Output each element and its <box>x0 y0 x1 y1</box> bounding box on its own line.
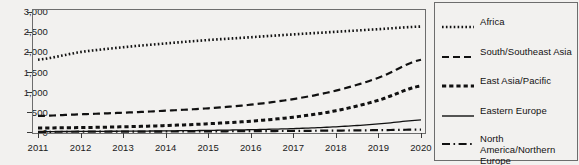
series-line-south-southeast-asia <box>38 60 421 116</box>
x-tick-mark <box>336 133 337 138</box>
legend-item[interactable]: North America/Northern Europe <box>441 133 577 165</box>
square-dash-line-swatch <box>441 77 475 87</box>
chart-screenshot: 3,000 2,500 2,000 1,500 1,000 500 0 2011… <box>0 0 579 165</box>
legend-item[interactable]: Eastern Europe <box>441 105 577 117</box>
legend-item-label: South/Southeast Asia <box>480 46 572 57</box>
legend-item[interactable]: South/Southeast Asia <box>441 46 577 58</box>
x-tick-mark <box>293 133 294 138</box>
x-tick-mark <box>81 133 82 138</box>
x-tick-label: 2014 <box>146 142 186 153</box>
x-tick-mark <box>123 133 124 138</box>
legend-item-label: Africa <box>480 16 505 27</box>
plot-lines <box>32 9 426 134</box>
x-tick-label: 2016 <box>231 142 271 153</box>
x-tick-mark <box>208 133 209 138</box>
dash-dot-line-swatch <box>441 135 475 145</box>
x-tick-mark <box>166 133 167 138</box>
x-tick-mark <box>421 133 422 138</box>
x-tick-label: 2012 <box>61 142 101 153</box>
legend-item-label: North America/Northern Europe <box>480 133 577 165</box>
x-tick-mark <box>251 133 252 138</box>
legend-item[interactable]: Africa <box>441 16 577 28</box>
x-tick-label: 2011 <box>18 142 58 153</box>
solid-line-swatch <box>441 107 475 117</box>
chart-legend: AfricaSouth/Southeast AsiaEast Asia/Paci… <box>434 2 578 161</box>
legend-item-label: Eastern Europe <box>480 105 547 116</box>
legend-item-label: East Asia/Pacific <box>480 75 551 86</box>
x-tick-label: 2015 <box>188 142 228 153</box>
x-axis-labels: 2011201220132014201520162017201820192020 <box>0 139 440 159</box>
long-dash-line-swatch <box>441 48 475 58</box>
legend-item[interactable]: East Asia/Pacific <box>441 75 577 87</box>
x-tick-label: 2013 <box>103 142 143 153</box>
x-tick-label: 2019 <box>358 142 398 153</box>
dotted-line-swatch <box>441 18 475 28</box>
series-line-africa <box>38 27 421 60</box>
x-tick-label: 2017 <box>273 142 313 153</box>
x-tick-mark <box>378 133 379 138</box>
x-tick-label: 2018 <box>316 142 356 153</box>
x-tick-mark <box>38 133 39 138</box>
series-line-eastern-europe <box>38 120 421 132</box>
